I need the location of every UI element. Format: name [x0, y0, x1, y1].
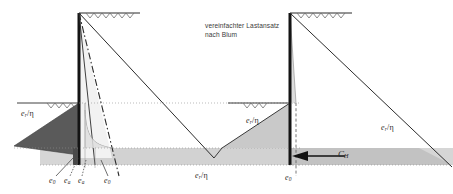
right-ground-hatch-icon: [297, 13, 345, 18]
left-wall-toe-block: [73, 148, 78, 165]
earth-pressure-figure: vereinfachter Lastansatz nach Blum er/η …: [0, 0, 453, 194]
label-bottom-ea-right: ea: [78, 177, 84, 186]
right-failure-line: [290, 13, 452, 167]
right-ground-surface: [290, 13, 352, 18]
left-retaining-wall: [78, 13, 81, 165]
label-right-bottom-e0: e0: [285, 174, 291, 183]
label-resultant-force: CH: [338, 150, 349, 160]
left-excavation-surface: [17, 103, 79, 108]
left-ground-surface: [79, 13, 140, 18]
left-ground-hatch-icon: [86, 13, 134, 18]
label-bottom-e0-right: e0: [104, 177, 110, 186]
blum-note-line1: vereinfachter Lastansatz: [205, 22, 279, 31]
label-left-wedge-pressure: er/η: [21, 110, 34, 119]
right-retaining-wall: [289, 13, 292, 165]
label-bottom-ea-left: ea: [64, 177, 70, 186]
blum-note: vereinfachter Lastansatz nach Blum: [205, 22, 279, 40]
left-wall-pale-field: [79, 13, 112, 158]
label-right-wedge-pressure: er/η: [246, 117, 259, 126]
right-excavation-surface: [228, 103, 290, 108]
label-far-right-pressure: er/η: [381, 124, 394, 133]
blum-note-line2: nach Blum: [205, 31, 279, 40]
right-excavation-hatch-icon: [243, 103, 267, 108]
label-middle-pressure: er/η: [195, 172, 208, 181]
label-bottom-e0-left: e0: [49, 177, 55, 186]
